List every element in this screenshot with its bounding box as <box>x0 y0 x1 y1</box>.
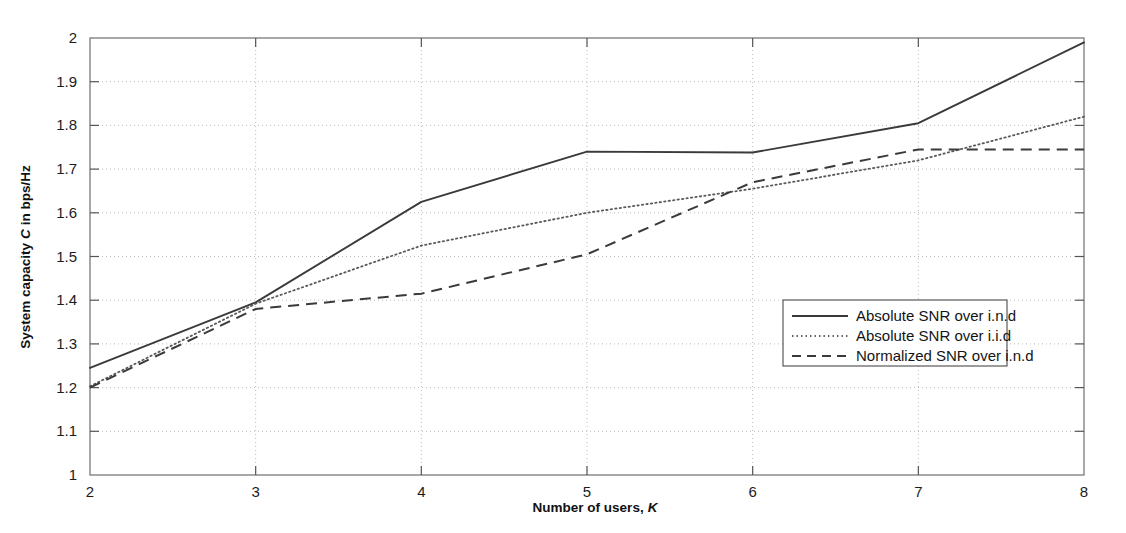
y-tick-label: 2 <box>69 29 77 46</box>
y-tick-label: 1.4 <box>56 291 77 308</box>
y-tick-label: 1.7 <box>56 160 77 177</box>
x-tick-label: 6 <box>748 483 756 500</box>
x-axis-title: Number of users,K <box>533 500 659 515</box>
x-tick-label: 5 <box>583 483 591 500</box>
x-tick-label: 2 <box>86 483 94 500</box>
y-tick-label: 1.3 <box>56 335 77 352</box>
legend-label: Absolute SNR over i.n.d <box>856 307 1016 324</box>
y-axis-tick-labels: 11.11.21.31.41.51.61.71.81.92 <box>56 29 77 483</box>
y-tick-label: 1.1 <box>56 422 77 439</box>
y-tick-label: 1.2 <box>56 379 77 396</box>
y-tick-label: 1.5 <box>56 248 77 265</box>
legend-label: Normalized SNR over i.n.d <box>856 347 1034 364</box>
x-axis-tick-labels: 2345678 <box>86 483 1088 500</box>
y-tick-label: 1.6 <box>56 204 77 221</box>
legend: Absolute SNR over i.n.dAbsolute SNR over… <box>783 300 1034 366</box>
line-chart: 11.11.21.31.41.51.61.71.81.92 2345678 Nu… <box>0 0 1126 533</box>
y-tick-label: 1.8 <box>56 116 77 133</box>
x-tick-label: 7 <box>914 483 922 500</box>
x-tick-label: 4 <box>417 483 425 500</box>
legend-label: Absolute SNR over i.i.d <box>856 327 1011 344</box>
chart-figure: 11.11.21.31.41.51.61.71.81.92 2345678 Nu… <box>0 0 1126 533</box>
x-tick-label: 3 <box>251 483 259 500</box>
y-tick-label: 1.9 <box>56 73 77 90</box>
y-axis-title: System capacityCin bps/Hz <box>18 165 33 349</box>
x-tick-label: 8 <box>1080 483 1088 500</box>
y-tick-label: 1 <box>69 466 77 483</box>
